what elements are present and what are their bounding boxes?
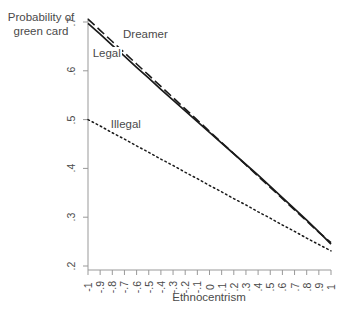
y-axis-tick-label: .6 (64, 60, 78, 82)
y-axis-tick-label: .7 (64, 11, 78, 33)
plot-area (0, 0, 343, 313)
x-axis-title: Ethnocentrism (88, 291, 330, 303)
series-label-legal: Legal (92, 47, 122, 59)
y-axis-tick-label: .4 (64, 157, 78, 179)
y-axis-ticks (83, 22, 88, 266)
y-axis-tick-label: .3 (64, 206, 78, 228)
series-line-illegal (88, 120, 331, 251)
y-axis-tick-label: .5 (64, 109, 78, 131)
series-label-illegal: Illegal (110, 118, 142, 130)
data-series-lines (88, 19, 331, 251)
series-label-dreamer: Dreamer (122, 28, 169, 40)
chart-container: Probability ofgreen card .2.3.4.5.6.7 -1… (0, 0, 343, 313)
y-axis-tick-label: .2 (64, 255, 78, 277)
